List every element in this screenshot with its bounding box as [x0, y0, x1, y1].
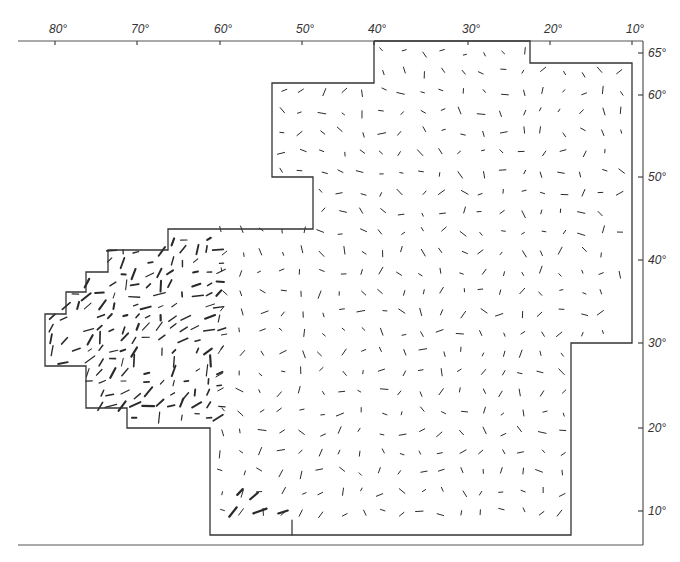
orientation-vector [239, 509, 244, 515]
orientation-vector [281, 312, 284, 316]
orientation-vector [500, 210, 504, 213]
orientation-vector [322, 172, 327, 173]
orientation-vector [500, 252, 502, 254]
orientation-vector [444, 352, 445, 357]
orientation-vector [564, 71, 566, 74]
orientation-vector [478, 72, 483, 74]
orientation-vector [582, 93, 587, 95]
orientation-vector [458, 172, 463, 178]
orientation-vector [439, 89, 443, 90]
orientation-vector [241, 309, 243, 315]
orientation-vector [483, 427, 486, 434]
orientation-vector [144, 373, 149, 374]
orientation-vector [123, 315, 127, 316]
orientation-vector [222, 251, 227, 255]
orientation-vector [379, 347, 381, 351]
orientation-vector [318, 291, 321, 298]
orientation-vector [440, 213, 446, 214]
orientation-vector [422, 490, 425, 492]
orientation-vector [240, 451, 243, 453]
orientation-vector [297, 131, 302, 135]
orientation-vector [244, 253, 245, 257]
orientation-vector [110, 282, 116, 286]
orientation-vector [378, 468, 380, 473]
orientation-vector [121, 358, 123, 366]
orientation-vector [258, 271, 261, 272]
longitude-label: 20° [543, 22, 562, 36]
orientation-vector [500, 111, 502, 116]
orientation-vector [281, 290, 286, 291]
orientation-vector [219, 406, 225, 407]
orientation-vector [502, 94, 509, 95]
orientation-vector [319, 251, 324, 256]
orientation-vector [441, 369, 442, 376]
orientation-vector [208, 283, 212, 286]
orientation-vector [318, 113, 326, 114]
orientation-vector [458, 151, 461, 154]
orientation-vector [363, 371, 364, 374]
orientation-vector [399, 434, 406, 435]
orientation-vector [206, 304, 215, 307]
orientation-vector [378, 289, 383, 293]
orientation-vector [401, 246, 403, 251]
orientation-vector [523, 468, 524, 474]
orientation-vector [221, 334, 226, 335]
orientation-vector [323, 89, 326, 96]
orientation-vector [602, 330, 603, 333]
orientation-vector [193, 272, 198, 273]
orientation-vector [402, 232, 405, 234]
orientation-vector [483, 90, 485, 93]
orientation-vector [525, 48, 526, 55]
orientation-vector [300, 471, 302, 478]
orientation-vector [398, 152, 400, 156]
orientation-vector [282, 371, 285, 372]
orientation-vector [358, 428, 360, 431]
orientation-vector [238, 411, 243, 416]
orientation-vector [172, 350, 175, 353]
orientation-vector [500, 132, 507, 133]
orientation-vector [441, 487, 443, 491]
orientation-vector [397, 93, 404, 95]
orientation-vector [563, 413, 564, 416]
orientation-vector [172, 303, 177, 306]
orientation-vector [418, 171, 423, 172]
orientation-vector [283, 252, 284, 255]
orientation-vector [181, 316, 190, 321]
orientation-vector [557, 510, 562, 516]
orientation-vector [319, 512, 323, 518]
orientation-vector [95, 292, 104, 293]
orientation-vector [221, 509, 225, 510]
orientation-vector [119, 401, 126, 410]
orientation-vector [524, 127, 525, 133]
orientation-vector [279, 269, 283, 271]
orientation-vector [438, 469, 444, 471]
orientation-vector [442, 68, 445, 72]
orientation-vector [421, 228, 423, 231]
orientation-vector [320, 367, 323, 370]
latitude-label: 20° [647, 421, 666, 435]
orientation-vector [51, 346, 53, 356]
orientation-vector [359, 451, 360, 456]
orientation-vector [170, 324, 175, 328]
orientation-vector [423, 52, 427, 57]
orientation-vector [480, 331, 482, 336]
orientation-vector [356, 171, 363, 173]
orientation-vector [213, 307, 223, 308]
orientation-vector [342, 349, 346, 355]
orientation-vector [462, 251, 467, 253]
orientation-vector [172, 238, 175, 245]
orientation-vector [421, 92, 425, 93]
orientation-vector [501, 434, 506, 436]
orientation-vector [174, 357, 175, 367]
orientation-vector [361, 229, 367, 232]
orientation-vector [521, 490, 525, 492]
orientation-vector [167, 270, 173, 274]
orientation-vector [398, 214, 404, 215]
orientation-vector [109, 329, 113, 331]
orientation-vector [362, 252, 366, 255]
orientation-vector [49, 324, 53, 332]
orientation-vector [379, 151, 382, 154]
orientation-vector [197, 348, 199, 352]
orientation-vector [362, 350, 366, 352]
orientation-vector [180, 246, 186, 253]
